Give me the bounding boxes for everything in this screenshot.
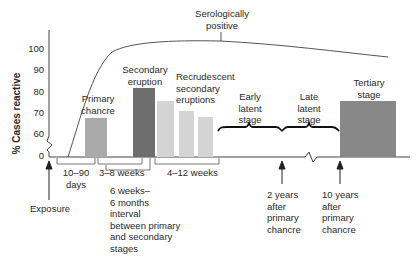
bar-tertiary-stage <box>340 101 396 157</box>
bar-recrudescent-3 <box>198 117 213 157</box>
y-tick-90: 90 <box>22 64 44 75</box>
bar-primary-chancre <box>85 118 107 157</box>
interval-6w-6m-label: 6 weeks– 6 months interval between prima… <box>110 185 180 254</box>
y-axis <box>47 30 52 157</box>
syphilis-serology-diagram: % Cases reactive 100 90 80 70 60 0 Serol… <box>0 0 417 270</box>
y-tick-60: 60 <box>22 128 44 139</box>
bar-recrudescent-1 <box>157 101 174 157</box>
interval-3-8-weeks-label: 3–8 weeks <box>99 167 144 179</box>
ten-years-label: 10 years after primary chancre <box>322 189 358 235</box>
bar-secondary-eruption <box>133 88 155 157</box>
y-tick-0: 0 <box>22 150 44 161</box>
exposure-arrow <box>46 161 52 200</box>
bar-recrudescent-2 <box>179 111 194 157</box>
bracket-4-12-weeks <box>155 158 219 164</box>
exposure-label: Exposure <box>30 203 70 215</box>
ten-years-arrow <box>337 161 343 184</box>
interval-4-12-weeks-label: 4–12 weeks <box>167 167 218 179</box>
serologically-positive-label: Serologically positive <box>192 8 252 31</box>
secondary-eruption-label: Secondary eruption <box>118 64 172 87</box>
recrudescent-eruptions-label: Recrudescent secondary eruptions <box>176 71 235 106</box>
y-axis-label: % Cases reactive <box>11 64 22 164</box>
late-latent-label: Late latent stage <box>291 91 327 126</box>
interval-10-90-days-label: 10–90 days <box>58 167 94 190</box>
bracket-3-8-weeks <box>98 158 142 164</box>
primary-chancre-label: Primary chancre <box>78 93 118 116</box>
early-latent-label: Early latent stage <box>232 91 268 126</box>
bracket-10-90-days <box>57 158 95 164</box>
y-tick-70: 70 <box>22 107 44 118</box>
y-tick-80: 80 <box>22 86 44 97</box>
tertiary-stage-label: Tertiary stage <box>345 77 393 100</box>
two-years-arrow <box>279 161 285 184</box>
two-years-label: 2 years after primary chancre <box>267 189 301 235</box>
y-tick-100: 100 <box>22 43 44 54</box>
